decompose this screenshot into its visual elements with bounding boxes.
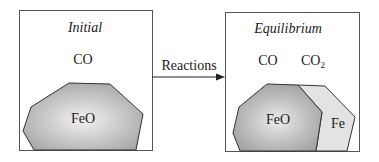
initial-title: Initial xyxy=(67,20,102,35)
reaction-arrow: Reactions xyxy=(152,58,225,81)
equilibrium-panel: Equilibrium CO CO2 FeO Fe xyxy=(226,13,360,152)
equilibrium-solid-fe: Fe xyxy=(331,116,345,131)
initial-solid-feo: FeO xyxy=(71,111,95,126)
arrow-label: Reactions xyxy=(161,58,216,73)
equilibrium-solid-feo: FeO xyxy=(266,112,290,127)
equilibrium-gas-co: CO xyxy=(258,53,277,68)
initial-gas-co: CO xyxy=(73,52,92,67)
reaction-diagram: Initial CO FeO Reactions Equilibrium CO … xyxy=(0,0,379,162)
initial-panel: Initial CO FeO xyxy=(20,11,153,151)
equilibrium-title: Equilibrium xyxy=(253,21,322,36)
arrow-head-icon xyxy=(216,74,225,81)
